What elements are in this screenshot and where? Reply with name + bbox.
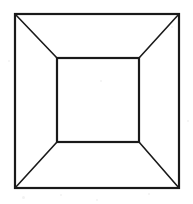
inner-square — [57, 58, 139, 142]
nested-square-illusion-drawing — [0, 0, 193, 204]
diagonal-bottom-left — [15, 142, 57, 188]
figure-canvas — [0, 0, 193, 204]
diagonal-top-left — [15, 14, 57, 58]
diagonal-top-right — [139, 14, 179, 58]
diagonal-bottom-right — [139, 142, 179, 188]
